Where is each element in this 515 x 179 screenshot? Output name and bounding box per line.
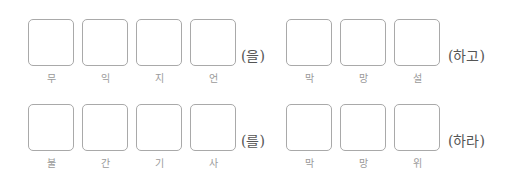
hint-syllable: 망	[340, 70, 386, 85]
hint-syllable: 막	[286, 70, 332, 85]
answer-box[interactable]	[340, 19, 386, 66]
particle-suffix: (하고)	[448, 45, 485, 65]
hint-syllable: 익	[82, 70, 128, 85]
answer-box[interactable]	[82, 104, 128, 151]
answer-box[interactable]	[394, 104, 440, 151]
answer-box[interactable]	[28, 104, 74, 151]
answer-box[interactable]	[286, 19, 332, 66]
hint-syllable: 간	[82, 155, 128, 170]
hint-syllable: 망	[340, 155, 386, 170]
hint-syllable: 언	[190, 70, 236, 85]
exercise-row-2: 불 간 기 사 (를) 막 망 위 (하라)	[0, 104, 515, 174]
hint-syllable: 위	[394, 155, 440, 170]
hint-syllable: 지	[136, 70, 182, 85]
hint-syllable: 설	[394, 70, 440, 85]
particle-suffix: (를)	[241, 130, 265, 150]
answer-box[interactable]	[394, 19, 440, 66]
answer-box[interactable]	[136, 19, 182, 66]
answer-box[interactable]	[190, 104, 236, 151]
particle-suffix: (을)	[241, 45, 265, 65]
answer-box[interactable]	[28, 19, 74, 66]
answer-box[interactable]	[286, 104, 332, 151]
hint-syllable: 기	[136, 155, 182, 170]
hint-syllable: 불	[28, 155, 74, 170]
hint-syllable: 막	[286, 155, 332, 170]
answer-box[interactable]	[82, 19, 128, 66]
hint-syllable: 무	[28, 70, 74, 85]
hint-syllable: 사	[190, 155, 236, 170]
answer-box[interactable]	[136, 104, 182, 151]
answer-box[interactable]	[340, 104, 386, 151]
particle-suffix: (하라)	[448, 130, 485, 150]
answer-box[interactable]	[190, 19, 236, 66]
exercise-row-1: 무 익 지 언 (을) 막 망 설 (하고)	[0, 19, 515, 89]
